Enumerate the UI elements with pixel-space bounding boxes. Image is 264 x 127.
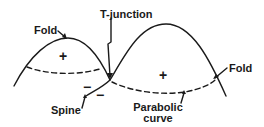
t-junction-label: T-junction <box>100 9 153 20</box>
left-parabolic-curve <box>27 67 100 73</box>
right-region-plus-sign: + <box>159 68 167 82</box>
fold-left-label: Fold <box>34 25 57 36</box>
right-fold-curve <box>86 24 226 96</box>
minus-sign-upper: − <box>83 80 91 94</box>
left-region-plus-sign: + <box>59 49 67 63</box>
fold-spine-diagram: Fold T-junction Fold Spine Parabolic cur… <box>0 0 264 127</box>
parabolic-label-line2: curve <box>128 113 188 124</box>
t-junction-arrow-stem <box>108 18 111 76</box>
spine-label: Spine <box>51 105 81 116</box>
minus-sign-lower: − <box>96 88 104 102</box>
parabolic-curve-label: Parabolic curve <box>128 102 188 124</box>
spine-arrow-line <box>82 97 85 108</box>
fold-right-label: Fold <box>229 63 252 74</box>
